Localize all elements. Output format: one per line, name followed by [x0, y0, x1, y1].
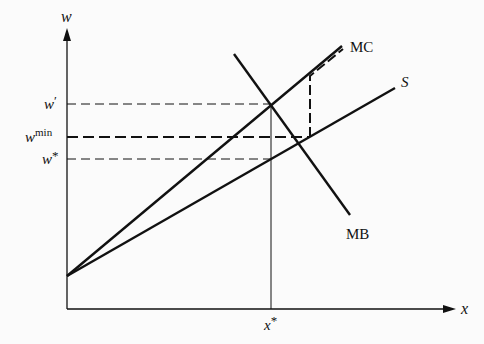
mc-curve [67, 46, 342, 276]
x-axis-arrow-icon [443, 305, 456, 313]
s-label: S [401, 74, 409, 90]
mc-label: MC [350, 39, 373, 55]
y-axis-label: w [61, 8, 72, 25]
w-star-label: w* [42, 148, 59, 167]
mc-with-minimum-wage-curve [310, 49, 343, 137]
w-min-label: wmin [25, 126, 53, 145]
mb-curve [234, 54, 350, 215]
externality-diagram: w x w′ wmin w* x* MC S MB [0, 0, 484, 344]
s-curve [67, 88, 395, 276]
mb-label: MB [346, 226, 369, 242]
w-prime-label: w′ [44, 93, 57, 112]
y-axis-arrow-icon [63, 28, 71, 41]
x-star-label: x* [263, 313, 277, 333]
x-axis-label: x [460, 300, 468, 317]
